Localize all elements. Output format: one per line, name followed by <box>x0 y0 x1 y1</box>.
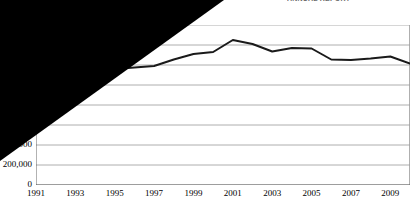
y-axis-tick-label: 1,400,000 <box>0 40 32 49</box>
x-axis-tick-label: 1997 <box>145 188 163 198</box>
x-axis-tick-label: 1993 <box>66 188 84 198</box>
chart-svg <box>36 25 410 185</box>
y-axis-tick-label: 400,000 <box>3 140 32 149</box>
y-axis-labels: 0200,000400,000600,000800,0001,000,0001,… <box>0 25 36 185</box>
x-axis-labels: 1991199319951997199920012003200520072009 <box>36 188 410 202</box>
header-text: ANNUAL REPORT <box>287 0 407 3</box>
x-axis-tick-label: 1999 <box>184 188 202 198</box>
y-axis-tick-label: 200,000 <box>3 160 32 169</box>
y-axis-tick-label: 800,000 <box>3 100 32 109</box>
x-axis-tick-label: 2007 <box>342 188 360 198</box>
x-axis-tick-label: 2005 <box>303 188 321 198</box>
y-axis-tick-label: 1,600,000 <box>0 20 32 29</box>
y-axis-tick-label: 600,000 <box>3 120 32 129</box>
x-axis-tick-label: 2009 <box>381 188 399 198</box>
x-axis-tick-label: 1995 <box>106 188 124 198</box>
chart-screenshot: ANNUAL REPORT 0200,000400,000600,000800,… <box>0 0 410 204</box>
x-axis-tick-label: 1991 <box>27 188 45 198</box>
gridlines <box>36 25 410 185</box>
y-axis-tick-label: 1,000,000 <box>0 80 32 89</box>
y-axis-tick-label: 1,200,000 <box>0 60 32 69</box>
x-axis-tick-label: 2001 <box>224 188 242 198</box>
plot-area <box>36 25 410 185</box>
x-axis-tick-label: 2003 <box>263 188 281 198</box>
